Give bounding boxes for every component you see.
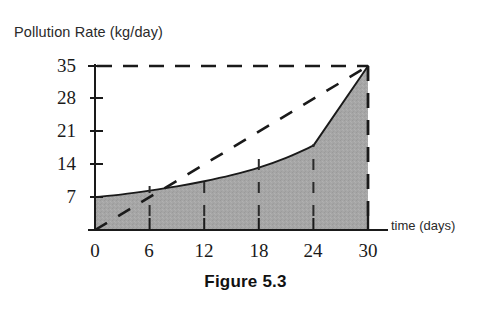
x-tick-label-12: 12: [183, 240, 225, 262]
y-tick-label-21: 21: [34, 120, 76, 142]
x-tick-label-0: 0: [74, 240, 116, 262]
x-tick-label-24: 24: [292, 240, 334, 262]
x-tick-label-30: 30: [347, 240, 389, 262]
x-axis-title: time (days): [391, 218, 455, 233]
figure-container: Pollution Rate (kg/day): [0, 0, 491, 314]
y-tick-label-35: 35: [34, 55, 76, 77]
y-tick-label-7: 7: [34, 186, 76, 208]
x-tick-label-18: 18: [238, 240, 280, 262]
figure-caption: Figure 5.3: [0, 272, 491, 292]
y-tick-label-14: 14: [34, 153, 76, 175]
x-tick-label-6: 6: [128, 240, 170, 262]
y-tick-label-28: 28: [34, 87, 76, 109]
